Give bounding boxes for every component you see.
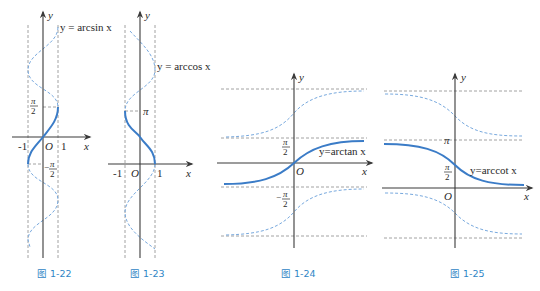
- tick-y-pi-half: π 2: [444, 162, 452, 182]
- svg-text:π: π: [283, 137, 288, 147]
- svg-text:π: π: [31, 96, 36, 106]
- figure-caption: 图 1-23: [130, 268, 165, 279]
- tick-y-minus-pi-half: − π 2: [276, 189, 290, 209]
- tick-y-pi-half: π 2: [282, 137, 290, 157]
- arctan-upper-branch: [226, 91, 364, 137]
- svg-text:2: 2: [283, 147, 288, 157]
- tick-y-pi-half: π 2: [30, 96, 38, 116]
- x-axis-label: x: [361, 165, 367, 177]
- y-axis-label: y: [47, 9, 53, 21]
- figure-caption: 图 1-25: [450, 268, 485, 279]
- figure-caption: 图 1-24: [281, 268, 316, 279]
- tick-x-minus-1: -1: [18, 140, 27, 152]
- tick-y-pi: π: [143, 105, 149, 117]
- x-axis-label: x: [83, 140, 89, 152]
- svg-text:2: 2: [283, 199, 288, 209]
- origin-label: O: [45, 140, 53, 152]
- svg-text:2: 2: [445, 172, 450, 182]
- arccos-function-label: y = arccos x: [157, 60, 211, 72]
- figure-arccot: y y=arccot x x O π π 2 图 1-25: [382, 71, 532, 279]
- svg-text:2: 2: [50, 169, 55, 179]
- arctan-function-label: y=arctan x: [319, 145, 366, 157]
- tick-y-minus-pi-half: − π 2: [44, 159, 57, 179]
- arccot-lower-branch: [385, 193, 522, 234]
- y-axis-label: y: [298, 71, 304, 83]
- arccot-upper-branch: [385, 94, 522, 136]
- x-axis-label: x: [523, 190, 529, 202]
- tick-x-minus-1: -1: [113, 167, 122, 179]
- origin-label: O: [131, 167, 139, 179]
- svg-text:π: π: [50, 159, 55, 169]
- figure-arccos: y y = arccos x x O -1 1 π 图 1-23: [108, 9, 211, 279]
- tick-x-1: 1: [157, 167, 163, 179]
- figure-arcsin: y y = arcsin x x O -1 1 π 2 − π 2 图 1-22: [12, 9, 112, 279]
- svg-text:2: 2: [31, 106, 36, 116]
- y-axis-label: y: [460, 71, 466, 83]
- y-axis-label: y: [144, 9, 150, 21]
- svg-text:π: π: [283, 189, 288, 199]
- svg-text:−: −: [44, 162, 49, 172]
- x-axis-label: x: [185, 167, 191, 179]
- arcsin-function-label: y = arcsin x: [60, 21, 112, 33]
- tick-y-pi: π: [444, 134, 450, 146]
- figure-arctan: y y=arctan x x O π 2 − π 2 图 1-24: [217, 71, 372, 279]
- arccot-function-label: y=arccot x: [470, 164, 517, 176]
- figure-caption: 图 1-22: [37, 268, 72, 279]
- arctan-lower-branch: [226, 189, 364, 235]
- origin-label: O: [444, 190, 452, 202]
- svg-text:π: π: [445, 162, 450, 172]
- figures-canvas: y y = arcsin x x O -1 1 π 2 − π 2 图 1-22…: [0, 0, 540, 291]
- svg-text:−: −: [276, 192, 281, 202]
- origin-label: O: [296, 165, 304, 177]
- tick-x-1: 1: [61, 140, 67, 152]
